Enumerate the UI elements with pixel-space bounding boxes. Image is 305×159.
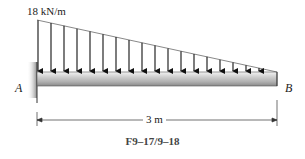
support-a-label: A — [15, 81, 22, 96]
load-envelope-line — [37, 20, 277, 72]
span-length-label: 3 m — [143, 113, 166, 125]
support-b-label: B — [285, 81, 292, 96]
figure-caption: F9–17/9–18 — [0, 135, 305, 147]
beam — [37, 72, 277, 86]
load-intensity-label: 18 kN/m — [27, 5, 66, 17]
distributed-load-arrows — [38, 20, 259, 71]
fixed-support-wall — [27, 62, 37, 103]
